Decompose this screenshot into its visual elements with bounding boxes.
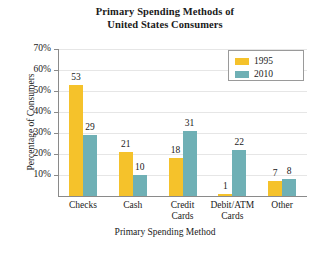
chart-legend: 19952010 [228, 50, 304, 81]
y-tick-mark [54, 91, 59, 92]
chart-title: Primary Spending Methods of United State… [40, 6, 290, 31]
bar [268, 181, 282, 196]
x-category-label-line: Cards [155, 211, 211, 222]
bar [69, 85, 83, 196]
x-category-label: Other [254, 200, 310, 211]
bar-value-label: 29 [79, 123, 101, 133]
x-category-label-line: Debit/ATM [204, 200, 260, 211]
chart-title-line-2: United States Consumers [40, 19, 290, 32]
bar [169, 158, 183, 196]
x-category-label-line: Cards [204, 211, 260, 222]
legend-swatch [235, 58, 249, 65]
bar-value-label: 22 [228, 138, 250, 148]
bar [83, 135, 97, 196]
x-category-label-line: Cash [105, 200, 161, 211]
y-tick-mark [54, 175, 59, 176]
x-category-label: Debit/ATMCards [204, 200, 260, 222]
y-tick-label: 30% [11, 128, 51, 138]
x-category-label: Cash [105, 200, 161, 211]
gridline [58, 112, 307, 113]
x-category-label-line: Credit [155, 200, 211, 211]
x-category-label-line: Other [254, 200, 310, 211]
bar-chart-figure: Primary Spending Methods of United State… [0, 0, 318, 256]
x-axis-line [58, 196, 307, 197]
y-tick-label: 10% [11, 170, 51, 180]
gridline [58, 91, 307, 92]
bar [133, 175, 147, 196]
bar-value-label: 10 [129, 163, 151, 173]
bar-value-label: 31 [179, 119, 201, 129]
y-tick-mark [54, 112, 59, 113]
bar-value-label: 21 [115, 140, 137, 150]
bar-value-label: 8 [278, 167, 300, 177]
y-tick-mark [54, 49, 59, 50]
bar [183, 131, 197, 196]
y-tick-mark [54, 133, 59, 134]
x-category-label: CreditCards [155, 200, 211, 222]
y-tick-label: 60% [11, 65, 51, 75]
bar [119, 152, 133, 196]
x-axis-title: Primary Spending Method [40, 227, 290, 237]
x-category-label-line: Checks [55, 200, 111, 211]
legend-swatch [235, 71, 249, 78]
chart-title-line-1: Primary Spending Methods of [40, 6, 290, 19]
bar-value-label: 53 [65, 73, 87, 83]
bar [282, 179, 296, 196]
legend-label: 2010 [254, 68, 273, 80]
legend-label: 1995 [254, 55, 273, 67]
y-tick-mark [54, 154, 59, 155]
y-tick-mark [54, 70, 59, 71]
y-tick-label: 20% [11, 149, 51, 159]
bar [232, 150, 246, 196]
y-tick-label: 40% [11, 107, 51, 117]
y-tick-label: 50% [11, 86, 51, 96]
y-tick-label: 70% [11, 44, 51, 54]
x-category-label: Checks [55, 200, 111, 211]
